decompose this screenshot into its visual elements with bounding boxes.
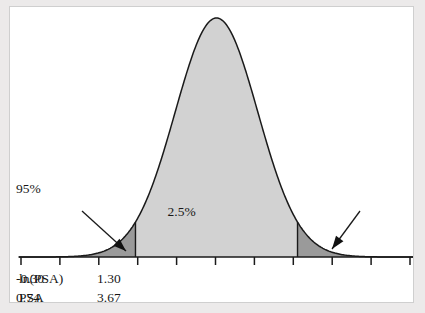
lnpsa-value-mean: -0.30	[16, 272, 44, 286]
left-tail-leader	[82, 211, 126, 251]
distribution-chart	[10, 7, 413, 302]
x-axis-ticks	[21, 257, 410, 265]
psa-value-mean: 0.74	[16, 291, 40, 303]
psa-value-upper: 3.67	[97, 291, 121, 303]
central-probability-label: 95%	[16, 182, 41, 196]
central-region-fill	[135, 18, 297, 257]
lnpsa-value-upper: 1.30	[97, 272, 121, 286]
right-tail-leader	[332, 211, 360, 249]
left-tail-fill	[19, 222, 135, 257]
right-tail-probability-label: 2.5%	[168, 205, 196, 219]
right-tail-fill	[298, 222, 413, 257]
figure-panel: 95% 2.5% 2.5% ln(PSA) PSA -1.90 -0.30 1.…	[9, 6, 414, 303]
